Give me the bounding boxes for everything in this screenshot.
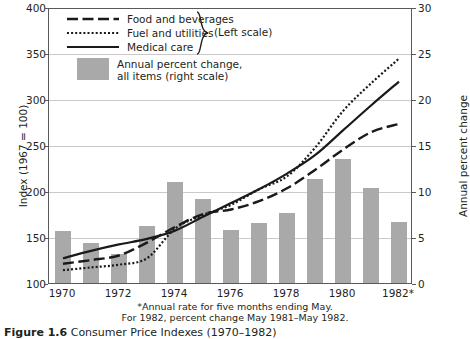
x-tick-1980: 1980 <box>329 288 356 299</box>
y-axis-right-title: Annual percent change <box>457 76 469 236</box>
dashed-line-icon <box>66 13 120 25</box>
y-tick-right-25: 25 <box>418 49 431 60</box>
line-medical-care <box>63 82 399 259</box>
x-tick-1970: 1970 <box>49 288 76 299</box>
line-fuel-and-utilities <box>63 59 399 271</box>
legend-bracket-icon <box>196 11 210 55</box>
line-food-and-beverages <box>63 124 399 264</box>
legend-label-line2: all items (right scale) <box>117 70 228 82</box>
bar-swatch-icon <box>77 58 109 80</box>
x-tick-1982: 1982* <box>382 288 414 299</box>
chart-legend: Food and beverages Fuel and utilities Me… <box>66 12 281 82</box>
legend-bracket-label: (Left scale) <box>214 26 272 38</box>
y-tick-right-30: 30 <box>418 3 431 14</box>
figure-consumer-price-indexes: Index (1967 = 100) Annual percent change… <box>0 0 470 339</box>
footnote-line-1: *Annual rate for five months ending May. <box>0 301 470 312</box>
y-tick-right-0: 0 <box>418 279 425 290</box>
legend-item-food: Food and beverages <box>66 12 281 25</box>
y-tick-right-20: 20 <box>418 95 431 106</box>
y-tick-left-150: 150 <box>26 233 46 244</box>
chart-footnote: *Annual rate for five months ending May.… <box>0 301 470 323</box>
legend-label-food: Food and beverages <box>127 13 234 25</box>
figure-caption: Figure 1.6 Consumer Price Indexes (1970–… <box>4 326 277 339</box>
legend-label-medical: Medical care <box>127 41 193 53</box>
legend-item-medical: Medical care <box>66 40 281 53</box>
y-tick-left-400: 400 <box>26 3 46 14</box>
x-tick-1978: 1978 <box>273 288 300 299</box>
y-tick-left-250: 250 <box>26 141 46 152</box>
figure-number: Figure 1.6 <box>4 326 67 339</box>
legend-label-annual-percent-change: Annual percent change, all items (right … <box>117 58 242 82</box>
x-tick-1976: 1976 <box>217 288 244 299</box>
x-tick-1974: 1974 <box>161 288 188 299</box>
y-tick-left-100: 100 <box>26 279 46 290</box>
y-tick-right-15: 15 <box>418 141 431 152</box>
figure-title: Consumer Price Indexes (1970–1982) <box>71 326 277 339</box>
solid-line-icon <box>66 41 120 53</box>
x-tick-1972: 1972 <box>105 288 132 299</box>
y-tickmark-left-100 <box>44 284 48 285</box>
footnote-line-2: For 1982, percent change May 1981–May 19… <box>0 312 470 323</box>
y-tick-left-350: 350 <box>26 49 46 60</box>
y-tickmark-right-0 <box>412 284 416 285</box>
y-tick-right-10: 10 <box>418 187 431 198</box>
dotted-line-icon <box>66 27 120 39</box>
y-tick-right-5: 5 <box>418 233 425 244</box>
legend-label-line1: Annual percent change, <box>117 58 242 70</box>
y-tick-left-300: 300 <box>26 95 46 106</box>
legend-item-annual-percent-change: Annual percent change, all items (right … <box>66 58 281 82</box>
y-tick-left-200: 200 <box>26 187 46 198</box>
